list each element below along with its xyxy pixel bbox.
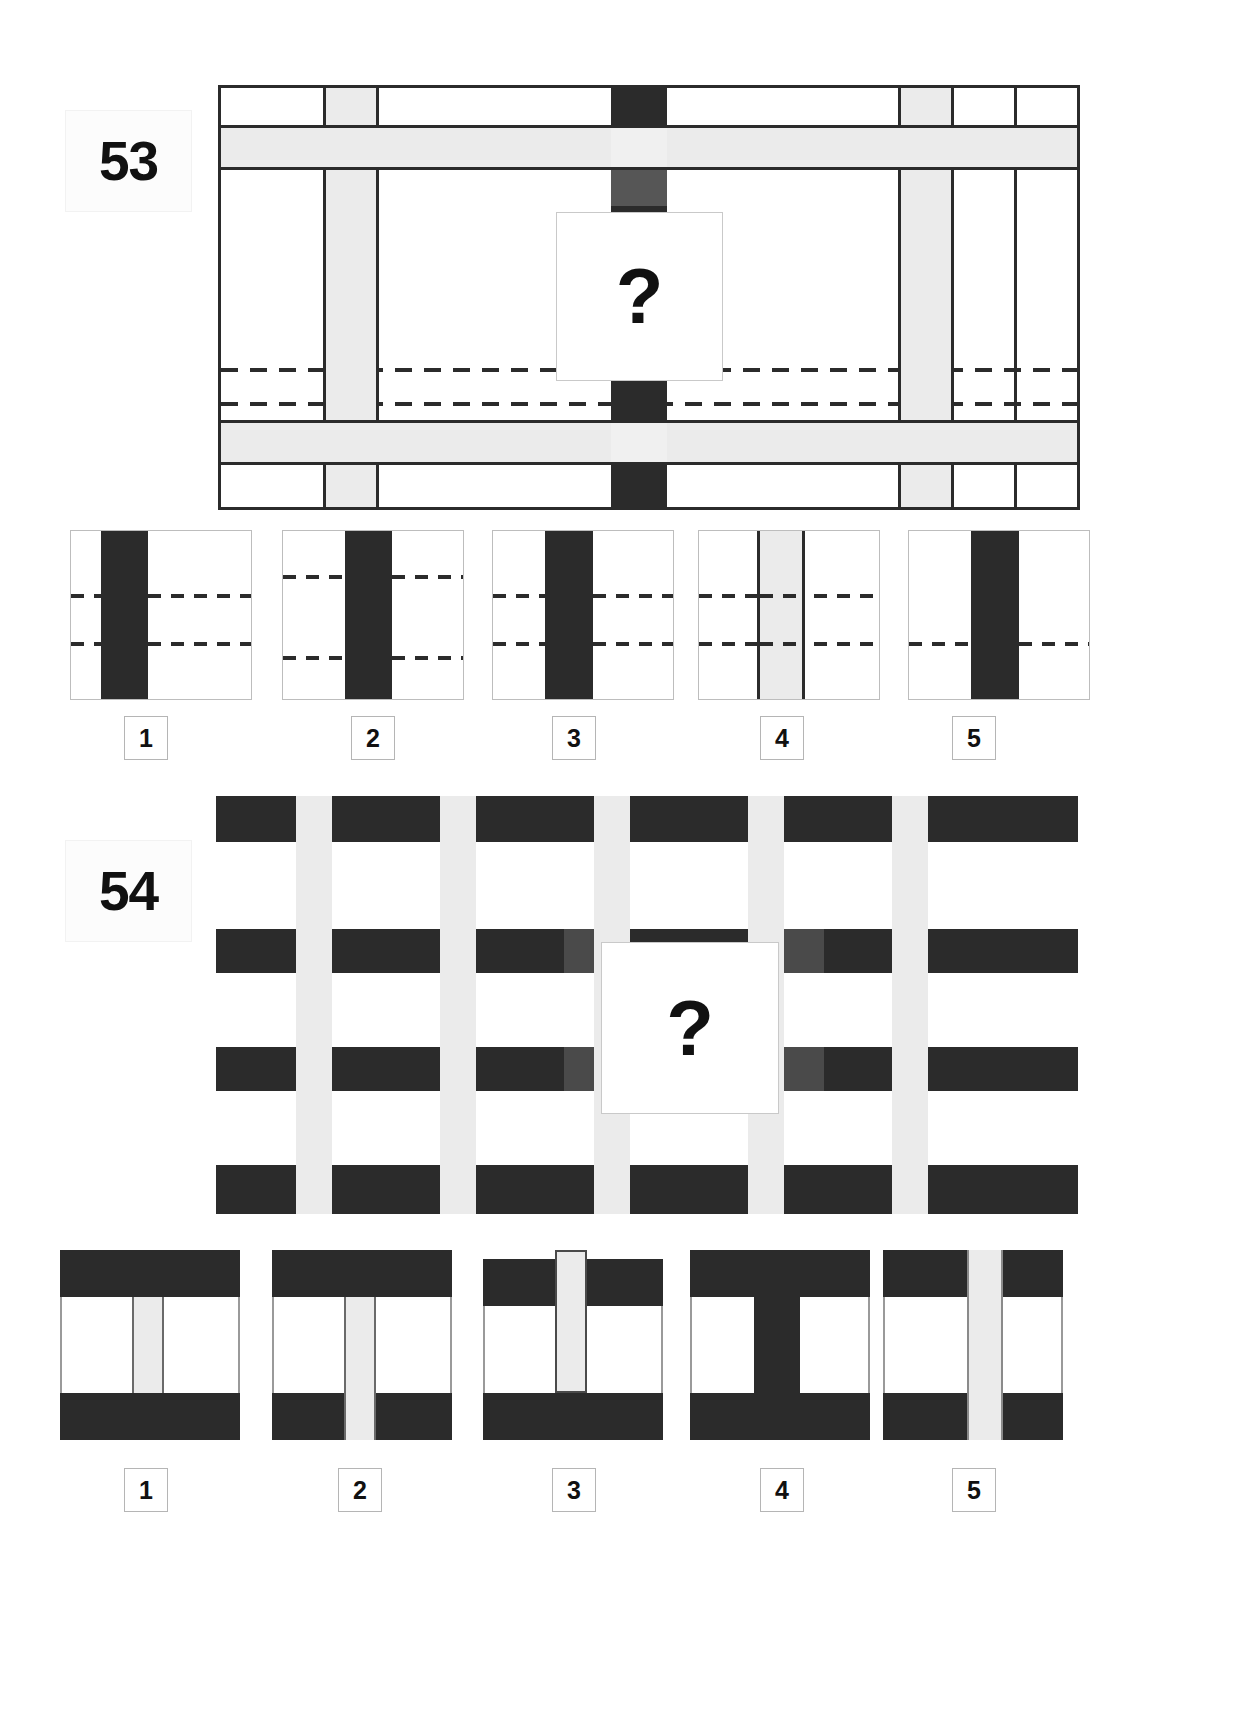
option-53-2-dash-right-lower	[392, 656, 463, 660]
matrix-53-light-bar-left-edge-b-overlay	[376, 345, 379, 427]
matrix-53: ?	[218, 85, 1080, 510]
option-number-53-1[interactable]: 1	[124, 716, 168, 760]
option-53-2[interactable]	[282, 530, 464, 700]
option-53-1[interactable]	[70, 530, 252, 700]
question-tile-53: ?	[556, 212, 723, 381]
matrix-54-bar-5	[892, 796, 928, 1214]
question-number-53-label: 53	[99, 129, 158, 193]
option-53-1-dash-right-lower	[148, 642, 251, 646]
option-53-3-dash-left-upper	[493, 594, 545, 598]
option-53-1-black-bar	[101, 531, 148, 699]
matrix-53-top-strip-vertical-c	[898, 88, 901, 126]
question-tile-54: ?	[601, 942, 779, 1114]
option-53-1-dash-left-upper	[71, 594, 101, 598]
option-54-2-band-top	[272, 1250, 452, 1297]
option-number-53-2[interactable]: 2	[351, 716, 395, 760]
option-54-3[interactable]	[483, 1250, 663, 1440]
option-number-54-1[interactable]: 1	[124, 1468, 168, 1512]
option-number-54-2[interactable]: 2	[338, 1468, 382, 1512]
option-53-3-dash-right-upper	[593, 594, 673, 598]
worksheet-page: 53	[0, 0, 1240, 1723]
matrix-53-black-bar-cross-top	[611, 88, 667, 128]
option-number-54-4-label: 4	[775, 1476, 789, 1505]
option-number-53-1-label: 1	[139, 724, 153, 753]
question-tile-54-label: ?	[666, 983, 714, 1074]
option-54-1-band-top	[60, 1250, 240, 1297]
question-number-54-label: 54	[99, 859, 158, 923]
matrix-53-light-bar-right-edge-a-overlay	[898, 345, 901, 427]
matrix-53-light-bar-left-overlay	[326, 345, 376, 427]
option-number-53-2-label: 2	[366, 724, 380, 753]
option-number-54-4[interactable]: 4	[760, 1468, 804, 1512]
matrix-53-black-bar-band-blend-bottom	[611, 423, 667, 462]
option-53-3-dash-left-lower	[493, 642, 545, 646]
matrix-54-band-4	[216, 1165, 1078, 1214]
matrix-54-band-tint-left	[564, 929, 594, 973]
option-53-4[interactable]	[698, 530, 880, 700]
option-53-2-dash-left-lower	[283, 656, 345, 660]
option-53-4-light-bar	[757, 531, 805, 699]
matrix-54-bar-1	[296, 796, 332, 1214]
matrix-54: ?	[216, 796, 1078, 1214]
matrix-53-top-strip-vertical-d	[951, 88, 954, 126]
matrix-53-light-bar-right-overlay	[901, 345, 951, 427]
option-number-53-3-label: 3	[567, 724, 581, 753]
option-number-53-3[interactable]: 3	[552, 716, 596, 760]
question-number-53: 53	[65, 110, 192, 212]
option-54-3-band-bottom	[483, 1393, 663, 1440]
option-number-54-5-label: 5	[967, 1476, 981, 1505]
option-number-54-3-label: 3	[567, 1476, 581, 1505]
option-53-2-dash-right-upper	[392, 575, 463, 579]
option-53-5[interactable]	[908, 530, 1090, 700]
option-number-53-4[interactable]: 4	[760, 716, 804, 760]
option-53-1-dash-right-upper	[148, 594, 251, 598]
option-54-5[interactable]	[883, 1250, 1063, 1440]
option-54-5-bar	[967, 1250, 1003, 1440]
option-54-3-bar	[555, 1250, 587, 1393]
option-53-4-dash-lower-over	[760, 642, 802, 646]
option-53-5-dash-left	[909, 642, 971, 646]
option-53-5-black-bar	[971, 531, 1019, 699]
option-53-3-black-bar	[545, 531, 593, 699]
question-number-54: 54	[65, 840, 192, 942]
option-53-1-dash-left-lower	[71, 642, 101, 646]
matrix-53-light-bar-right-edge-b-overlay	[951, 345, 954, 427]
matrix-54-band-tint-right-2	[784, 1047, 824, 1091]
option-54-1-band-bottom	[60, 1393, 240, 1440]
option-53-3[interactable]	[492, 530, 674, 700]
option-number-54-2-label: 2	[353, 1476, 367, 1505]
matrix-54-band-tint-left-2	[564, 1047, 594, 1091]
option-53-2-dash-left-upper	[283, 575, 345, 579]
option-number-54-5[interactable]: 5	[952, 1468, 996, 1512]
matrix-53-black-bar-shadow-lower	[611, 385, 667, 423]
option-54-4[interactable]	[690, 1250, 870, 1440]
option-54-2-bar	[344, 1297, 376, 1440]
matrix-53-black-bar-shadow-upper	[611, 170, 667, 206]
option-54-1-bar	[132, 1297, 164, 1393]
option-53-4-dash-upper-over	[760, 594, 802, 598]
matrix-53-top-strip-vertical-b	[376, 88, 379, 126]
matrix-54-bar-2	[440, 796, 476, 1214]
question-tile-53-label: ?	[616, 251, 664, 342]
option-number-54-1-label: 1	[139, 1476, 153, 1505]
option-number-54-3[interactable]: 3	[552, 1468, 596, 1512]
option-number-53-5-label: 5	[967, 724, 981, 753]
option-54-4-column	[754, 1250, 800, 1440]
matrix-53-light-bar-left-edge-a-overlay	[323, 345, 326, 427]
matrix-54-band-1	[216, 796, 1078, 842]
option-54-2[interactable]	[272, 1250, 452, 1440]
matrix-53-black-bar-cross-bottom	[611, 465, 667, 507]
matrix-53-top-strip-vertical-a	[323, 88, 326, 126]
matrix-53-vertical-rule-far-right-overlay	[1014, 345, 1017, 427]
option-53-2-black-bar	[345, 531, 392, 699]
matrix-54-band-tint-right	[784, 929, 824, 973]
matrix-53-black-bar-band-blend-top	[611, 128, 667, 167]
option-54-1[interactable]	[60, 1250, 240, 1440]
option-53-3-dash-right-lower	[593, 642, 673, 646]
option-53-5-dash-right	[1019, 642, 1089, 646]
option-number-53-5[interactable]: 5	[952, 716, 996, 760]
option-number-53-4-label: 4	[775, 724, 789, 753]
